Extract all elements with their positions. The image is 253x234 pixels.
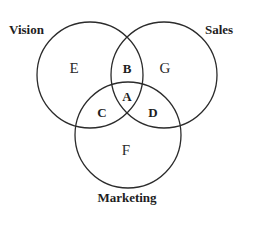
marketing-set-label: Marketing — [97, 190, 157, 205]
region-a-label: A — [122, 89, 132, 104]
region-f-label: F — [122, 142, 130, 158]
region-c-label: C — [97, 105, 106, 120]
sales-set-label: Sales — [205, 22, 233, 37]
region-g-label: G — [160, 60, 171, 76]
venn-diagram: Vision Sales Marketing E B G A C D F — [0, 0, 253, 234]
vision-set-label: Vision — [9, 22, 45, 37]
region-e-label: E — [69, 60, 78, 76]
region-b-label: B — [123, 61, 132, 76]
region-d-label: D — [148, 105, 157, 120]
